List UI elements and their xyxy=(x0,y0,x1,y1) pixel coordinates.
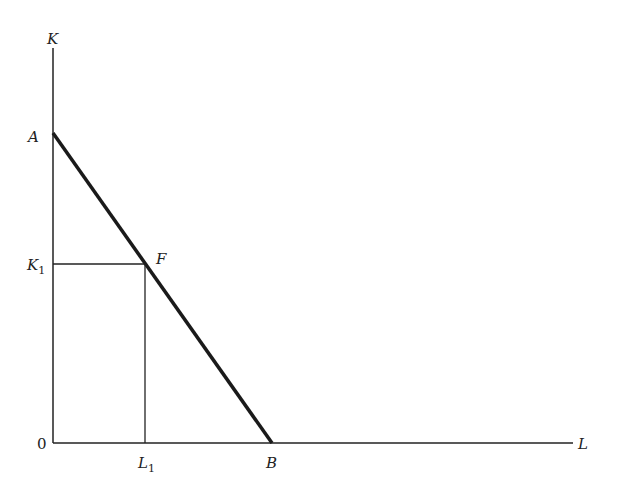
diagram-canvas: K L 0 A F B K1 L1 xyxy=(0,0,622,495)
budget-line-AB xyxy=(53,133,272,443)
tick-L1-label: L1 xyxy=(137,454,155,475)
point-B-label: B xyxy=(265,454,277,472)
x-axis-label: L xyxy=(577,435,588,453)
point-F-label: F xyxy=(155,250,167,268)
tick-K1-label: K1 xyxy=(26,256,45,277)
point-A-label: A xyxy=(26,128,39,146)
y-axis-label: K xyxy=(46,30,59,48)
origin-label: 0 xyxy=(37,435,47,453)
